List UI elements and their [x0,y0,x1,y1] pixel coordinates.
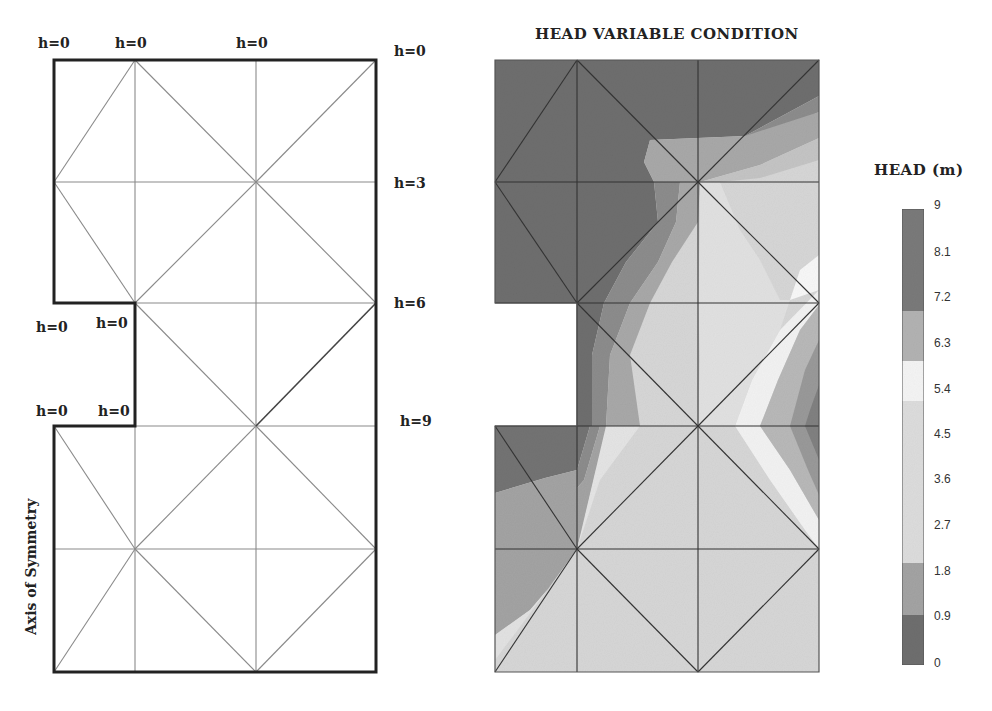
mesh-grid [54,60,376,672]
tick-label: 0.9 [934,609,951,623]
axis-of-symmetry-label: Axis of Symmetry [23,498,39,636]
tick-label: 6.3 [934,336,951,350]
bc-label: h=0 [36,319,68,335]
tick-label: 1.8 [934,564,951,578]
head-contour-plot: HEAD VARIABLE CONDITION [495,25,819,672]
colorbar-legend: HEAD (m) 9 8.1 7.2 6.3 5.4 4.5 3.6 2.7 1… [874,161,964,670]
tick-label: 7.2 [934,290,951,304]
mesh-diagonal-dark [256,303,376,426]
bc-label: h=0 [98,403,130,419]
domain-boundary [54,60,376,672]
colorbar [902,209,924,665]
tick-label: 0 [934,656,941,670]
figure: h=0 h=0 h=0 h=0 h=3 h=6 h=0 h=0 h=0 h=0 … [0,0,992,711]
tick-label: 5.4 [934,382,951,396]
legend-title: HEAD (m) [874,161,964,179]
contour-fills [495,60,819,672]
bc-label: h=9 [400,413,432,429]
tick-label: 8.1 [934,245,951,259]
boundary-labels: h=0 h=0 h=0 h=0 h=3 h=6 h=0 h=0 h=0 h=0 … [36,35,432,429]
tick-label: 2.7 [934,518,951,532]
tick-label: 4.5 [934,427,951,441]
bc-label: h=0 [38,35,70,51]
bc-label: h=0 [96,315,128,331]
mesh-diagram: h=0 h=0 h=0 h=0 h=3 h=6 h=0 h=0 h=0 h=0 … [23,35,432,672]
bc-label: h=0 [394,43,426,59]
bc-label: h=0 [115,35,147,51]
colorbar-ticks: 9 8.1 7.2 6.3 5.4 4.5 3.6 2.7 1.8 0.9 0 [934,198,951,670]
bc-label: h=6 [394,295,426,311]
bc-label: h=0 [36,403,68,419]
plot-title: HEAD VARIABLE CONDITION [535,25,799,43]
bc-label: h=3 [394,175,426,191]
tick-label: 3.6 [934,472,951,486]
bc-label: h=0 [236,35,268,51]
tick-label: 9 [934,198,941,212]
